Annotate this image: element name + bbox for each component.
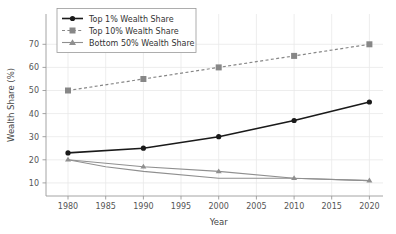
legend-label: Bottom 50% Wealth Share xyxy=(89,39,195,48)
data-point-marker xyxy=(140,76,146,82)
x-tick-labels: 1980 1985 1990 1995 2000 2005 2010 2015 … xyxy=(58,202,380,211)
y-axis-title: Wealth Share (%) xyxy=(6,68,16,142)
x-tick-label: 1995 xyxy=(171,202,191,211)
x-tick-label: 1985 xyxy=(96,202,116,211)
legend-square-marker-icon xyxy=(70,28,76,34)
x-tick-label: 2000 xyxy=(209,202,229,211)
legend-label: Top 1% Wealth Share xyxy=(88,15,174,24)
legend-label: Top 10% Wealth Share xyxy=(88,27,179,36)
y-tick-label: 50 xyxy=(29,86,39,95)
y-tick-label: 20 xyxy=(29,156,39,165)
y-tick-label: 70 xyxy=(29,40,39,49)
data-point-marker xyxy=(141,146,146,151)
x-tick-label: 1990 xyxy=(133,202,153,211)
x-tickmarks xyxy=(68,196,369,200)
chart-legend[interactable]: Top 1% Wealth Share Top 10% Wealth Share… xyxy=(57,9,196,53)
x-tick-label: 2010 xyxy=(284,202,304,211)
x-tick-label: 2020 xyxy=(359,202,379,211)
y-tick-label: 40 xyxy=(29,110,39,119)
y-tick-label: 10 xyxy=(29,179,39,188)
x-tick-label: 2005 xyxy=(246,202,266,211)
x-tick-label: 1980 xyxy=(58,202,78,211)
data-point-marker xyxy=(367,99,372,104)
chart-figure: 70 60 50 40 30 20 10 1980 1985 1990 1995… xyxy=(0,0,396,234)
data-point-marker xyxy=(216,134,221,139)
y-tickmarks xyxy=(43,44,47,183)
data-point-marker xyxy=(292,118,297,123)
data-point-marker xyxy=(216,64,222,70)
y-tick-labels: 70 60 50 40 30 20 10 xyxy=(29,40,39,188)
data-point-marker xyxy=(366,41,372,47)
data-point-marker xyxy=(65,150,70,155)
y-tick-label: 30 xyxy=(29,133,39,142)
x-axis-title: Year xyxy=(209,217,229,227)
data-point-marker xyxy=(65,157,71,162)
x-tick-label: 2015 xyxy=(322,202,342,211)
y-tick-label: 60 xyxy=(29,63,39,72)
data-point-marker xyxy=(65,88,71,94)
legend-circle-marker-icon xyxy=(70,16,75,21)
data-point-marker xyxy=(291,53,297,59)
line-chart-canvas: 70 60 50 40 30 20 10 1980 1985 1990 1995… xyxy=(0,0,396,234)
